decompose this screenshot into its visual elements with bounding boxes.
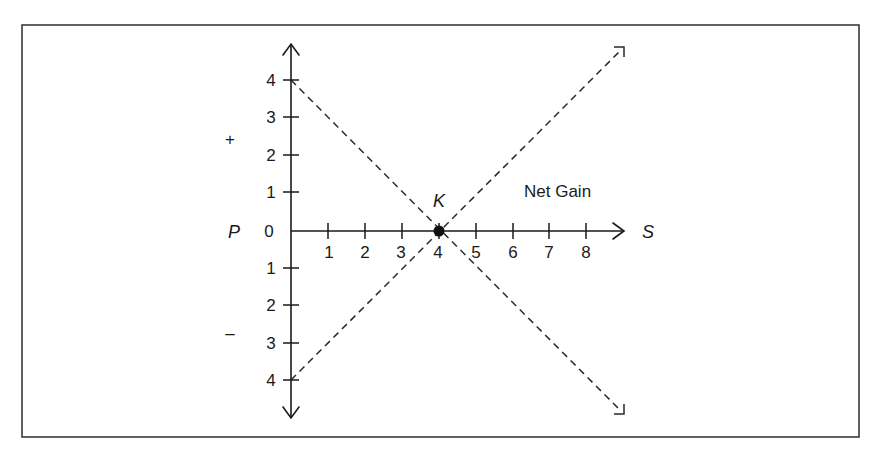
s-tick-label-8: 8 bbox=[581, 243, 590, 262]
p-tick-label-upper-4: 4 bbox=[266, 71, 275, 90]
s-tick-label-2: 2 bbox=[360, 243, 369, 262]
p-tick-label-origin: 0 bbox=[264, 222, 273, 241]
p-tick-label-lower-4: 4 bbox=[266, 371, 275, 390]
positive-sign: + bbox=[225, 130, 235, 149]
s-tick-label-3: 3 bbox=[396, 243, 405, 262]
negative-sign: – bbox=[225, 324, 235, 343]
diagram: 4 3 2 1 0 1 2 3 4 1 2 3 4 5 6 7 8 P S + … bbox=[0, 0, 881, 456]
k-point-label: K bbox=[433, 191, 446, 211]
p-tick-label-upper-2: 2 bbox=[266, 146, 275, 165]
k-point-marker bbox=[434, 226, 445, 237]
p-tick-label-lower-3: 3 bbox=[266, 334, 275, 353]
ascending-dashed-line bbox=[291, 50, 621, 380]
p-tick-label-upper-1: 1 bbox=[266, 183, 275, 202]
s-tick-label-1: 1 bbox=[324, 243, 333, 262]
p-tick-label-lower-2: 2 bbox=[266, 296, 275, 315]
p-tick-label-lower-1: 1 bbox=[266, 259, 275, 278]
net-gain-label: Net Gain bbox=[524, 182, 591, 201]
s-axis-label: S bbox=[642, 222, 654, 242]
p-axis-label: P bbox=[228, 222, 240, 242]
s-tick-label-4: 4 bbox=[433, 243, 442, 262]
s-tick-label-7: 7 bbox=[544, 243, 553, 262]
p-tick-label-upper-3: 3 bbox=[266, 108, 275, 127]
s-tick-label-6: 6 bbox=[508, 243, 517, 262]
s-tick-label-5: 5 bbox=[471, 243, 480, 262]
descending-dashed-line bbox=[291, 80, 621, 411]
